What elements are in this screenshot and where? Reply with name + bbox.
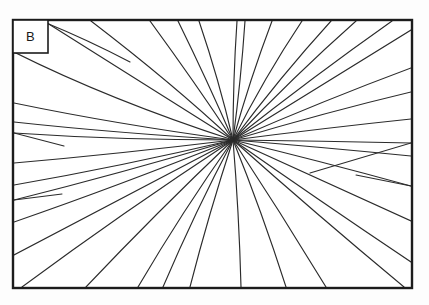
panel-label-text: B — [26, 29, 35, 44]
radial-line-diagram: B — [0, 0, 429, 305]
figure-panel: B — [0, 0, 429, 305]
